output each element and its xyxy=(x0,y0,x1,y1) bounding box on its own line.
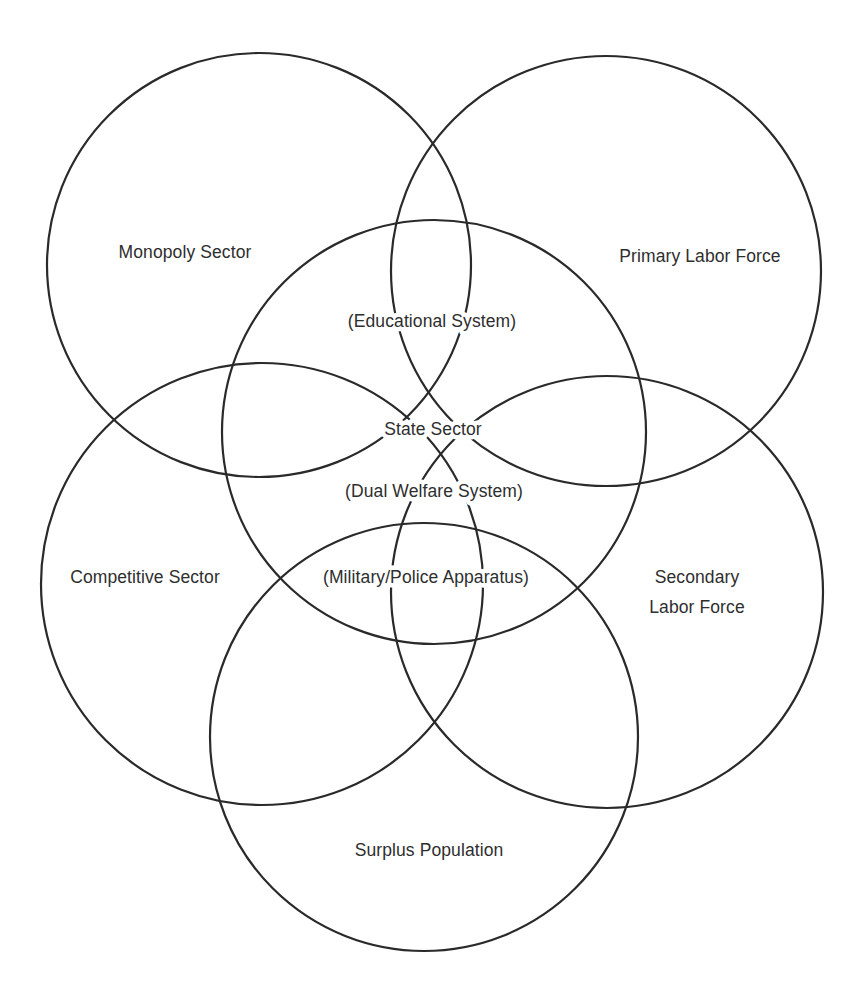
secondary-labor-force-label-line2: Labor Force xyxy=(649,597,744,617)
circles-group xyxy=(41,53,823,951)
labels-group: Monopoly Sector Primary Labor Force (Edu… xyxy=(70,242,781,860)
surplus-population-label: Surplus Population xyxy=(355,840,504,860)
secondary-labor-force-circle xyxy=(391,376,823,808)
competitive-sector-label: Competitive Sector xyxy=(70,567,220,587)
educational-system-label: (Educational System) xyxy=(348,311,516,331)
secondary-labor-force-label-line1: Secondary xyxy=(655,567,740,587)
primary-labor-force-label: Primary Labor Force xyxy=(619,246,780,266)
monopoly-sector-label: Monopoly Sector xyxy=(119,242,252,262)
dual-welfare-system-label: (Dual Welfare System) xyxy=(345,481,523,501)
venn-diagram: (Educational System) State Sector (Dual … xyxy=(0,0,856,981)
surplus-population-circle xyxy=(210,523,638,951)
military-police-apparatus-label: (Military/Police Apparatus) xyxy=(323,567,529,587)
label-halos: (Educational System) State Sector (Dual … xyxy=(323,311,529,587)
monopoly-sector-circle xyxy=(47,53,471,477)
state-sector-label: State Sector xyxy=(384,419,482,439)
